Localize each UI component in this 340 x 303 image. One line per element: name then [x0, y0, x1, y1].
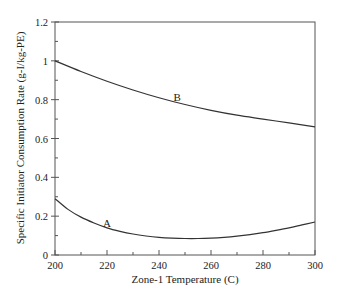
curve-label-b: B — [174, 91, 181, 103]
curve-b — [55, 61, 315, 127]
x-tick-label: 220 — [99, 260, 115, 271]
x-tick-label: 260 — [203, 260, 219, 271]
curve-labels: AB — [103, 91, 181, 229]
y-tick-label: 0.6 — [35, 134, 48, 145]
y-tick-label: 0 — [43, 250, 48, 261]
x-tick-labels: 200220240260280300 — [47, 260, 323, 271]
x-tick-label: 240 — [151, 260, 167, 271]
y-axis-title: Specific Initiator Consumption Rate (g-I… — [14, 31, 27, 244]
y-tick-label: 0.2 — [35, 211, 48, 222]
y-tick-label: 1.2 — [35, 17, 48, 28]
curve-label-a: A — [103, 217, 111, 229]
chart: 200220240260280300 00.20.40.60.811.2 AB … — [0, 0, 340, 303]
y-tick-labels: 00.20.40.60.811.2 — [35, 17, 49, 261]
plot-frame — [55, 22, 315, 255]
curves — [55, 61, 315, 239]
ticks — [51, 22, 315, 255]
x-tick-label: 300 — [307, 260, 323, 271]
curve-a — [55, 199, 315, 239]
x-tick-label: 200 — [47, 260, 63, 271]
x-tick-label: 280 — [255, 260, 271, 271]
y-tick-label: 0.4 — [35, 172, 49, 183]
x-axis-title: Zone-1 Temperature (C) — [131, 273, 238, 286]
y-tick-label: 1 — [43, 56, 48, 67]
y-tick-label: 0.8 — [35, 95, 48, 106]
